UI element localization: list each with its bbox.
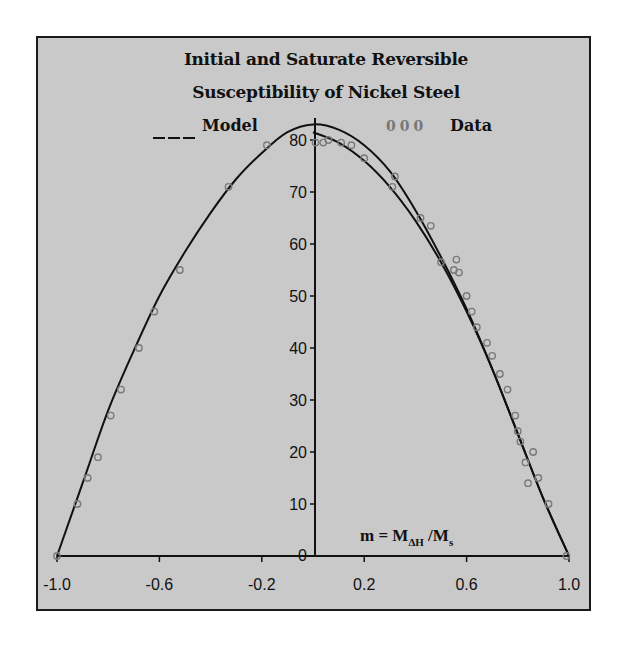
model-curve xyxy=(57,124,569,556)
y-tick-label: 60 xyxy=(289,236,307,253)
chart-title-line-2: Susceptibility of Nickel Steel xyxy=(192,82,460,102)
data-point xyxy=(484,340,490,346)
y-tick-labels: 01020304050607080 xyxy=(289,132,307,564)
chart-title-line-1: Initial and Saturate Reversible xyxy=(184,49,469,69)
data-point xyxy=(95,454,101,460)
data-point xyxy=(497,371,503,377)
series-layer xyxy=(54,124,570,559)
legend-data-marker-icon: 000 xyxy=(386,118,427,134)
y-tick-label: 80 xyxy=(289,132,307,149)
data-point xyxy=(136,345,142,351)
data-point xyxy=(85,475,91,481)
y-tick-label: 50 xyxy=(289,288,307,305)
data-point xyxy=(530,449,536,455)
legend-model-label: Model xyxy=(202,116,258,135)
data-point xyxy=(463,293,469,299)
x-axis-label: m = MΔH /Ms xyxy=(360,526,454,548)
x-tick-label: 0.2 xyxy=(353,576,375,593)
data-point xyxy=(177,267,183,273)
x-tick-labels: -1.0-0.6-0.20.20.61.0 xyxy=(43,576,580,593)
data-point xyxy=(512,412,518,418)
data-point xyxy=(118,386,124,392)
x-tick-label: -1.0 xyxy=(43,576,71,593)
data-point xyxy=(348,142,354,148)
y-tick-label: 70 xyxy=(289,184,307,201)
data-point xyxy=(428,223,434,229)
x-tick-label: 1.0 xyxy=(558,576,580,593)
data-point xyxy=(469,308,475,314)
model-curve xyxy=(313,132,569,556)
data-point xyxy=(453,256,459,262)
y-tick-label: 10 xyxy=(289,496,307,513)
y-tick-label: 0 xyxy=(298,547,307,564)
x-tick-label: -0.2 xyxy=(248,576,276,593)
data-point xyxy=(525,480,531,486)
chart-canvas: Initial and Saturate Reversible Suscepti… xyxy=(0,0,617,646)
data-point xyxy=(489,353,495,359)
x-tick-label: -0.6 xyxy=(146,576,174,593)
x-tick-label: 0.6 xyxy=(455,576,477,593)
data-point xyxy=(108,412,114,418)
legend-data-label: Data xyxy=(450,116,492,135)
y-tick-label: 20 xyxy=(289,444,307,461)
y-tick-label: 40 xyxy=(289,340,307,357)
data-point xyxy=(522,459,528,465)
y-tick-label: 30 xyxy=(289,392,307,409)
data-point xyxy=(504,386,510,392)
